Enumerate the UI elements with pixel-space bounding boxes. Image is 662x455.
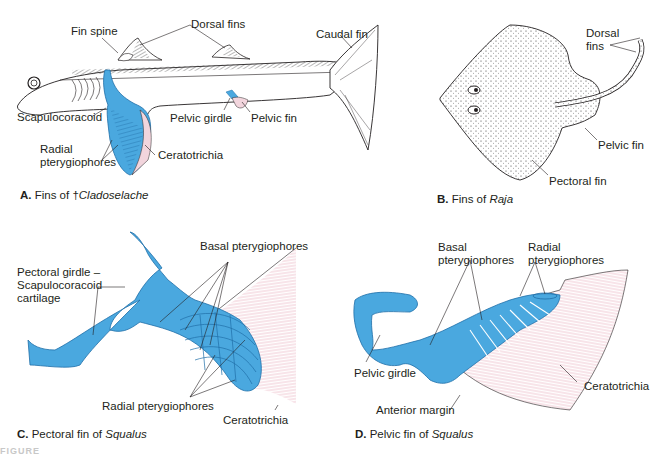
label-basal-pterygiophores-d: Basal pterygiophores xyxy=(438,241,514,267)
label-line-2: Scapulocoracoid xyxy=(17,279,102,291)
caption-panel-c: C. Pectoral fin of Squalus xyxy=(17,428,147,440)
caption-letter: D. xyxy=(355,428,367,440)
label-line-1: Basal xyxy=(438,241,467,253)
caption-letter: A. xyxy=(20,189,32,201)
caption-taxon: Cladoselache xyxy=(79,189,149,201)
label-radial-pterygiophores-d: Radial pterygiophores xyxy=(528,241,604,267)
caption-panel-b: B. Fins of Raja xyxy=(437,193,513,205)
diagram-artwork xyxy=(0,0,662,455)
label-line-2: pterygiophores xyxy=(40,156,116,168)
caption-text: Pectoral fin of xyxy=(32,428,106,440)
label-anterior-margin: Anterior margin xyxy=(376,404,455,417)
label-pelvic-girdle: Pelvic girdle xyxy=(170,112,232,125)
label-pelvic-girdle-d: Pelvic girdle xyxy=(354,367,416,380)
caption-letter: C. xyxy=(17,428,29,440)
label-pectoral-girdle: Pectoral girdle – Scapulocoracoid cartil… xyxy=(17,266,102,305)
caption-text: Fins of xyxy=(452,193,490,205)
label-line-1: Radial xyxy=(40,143,73,155)
caption-text: Fins of † xyxy=(35,189,79,201)
label-pelvic-fin-b: Pelvic fin xyxy=(598,139,644,152)
label-line-2: pterygiophores xyxy=(438,254,514,266)
label-line-2: fins xyxy=(586,40,604,52)
caption-letter: B. xyxy=(437,193,449,205)
label-caudal-fin: Caudal fin xyxy=(316,28,368,41)
label-line-3: cartilage xyxy=(17,292,60,304)
label-dorsal-fins: Dorsal fins xyxy=(191,18,245,31)
caption-taxon: Squalus xyxy=(105,428,147,440)
label-ceratotrichia-c: Ceratotrichia xyxy=(223,414,288,427)
caption-taxon: Squalus xyxy=(432,428,474,440)
label-line-2: pterygiophores xyxy=(528,254,604,266)
label-ceratotrichia-d: Ceratotrichia xyxy=(584,380,649,393)
label-pectoral-fin-b: Pectoral fin xyxy=(549,175,607,188)
squalus-pectoral-illustration xyxy=(28,232,296,410)
caption-taxon: Raja xyxy=(489,193,513,205)
caption-text: Pelvic fin of xyxy=(370,428,432,440)
label-radial-pterygiophores-a: Radial pterygiophores xyxy=(40,143,116,169)
label-basal-pterygiophores-c: Basal pterygiophores xyxy=(200,240,308,253)
label-line-1: Radial xyxy=(528,241,561,253)
label-pelvic-fin: Pelvic fin xyxy=(251,112,297,125)
label-line-1: Dorsal xyxy=(586,27,619,39)
caption-panel-a: A. Fins of †Cladoselache xyxy=(20,189,149,201)
label-ceratotrichia-a: Ceratotrichia xyxy=(158,149,223,162)
label-dorsal-fins-b: Dorsal fins xyxy=(586,27,619,53)
label-line-1: Pectoral girdle – xyxy=(17,266,100,278)
caption-panel-d: D. Pelvic fin of Squalus xyxy=(355,428,473,440)
label-scapulocoracoid: Scapulocoracoid xyxy=(17,111,102,124)
label-radial-pterygiophores-c: Radial pterygiophores xyxy=(102,400,214,413)
figure-label: FIGURE xyxy=(0,446,40,455)
label-fin-spine: Fin spine xyxy=(71,25,118,38)
